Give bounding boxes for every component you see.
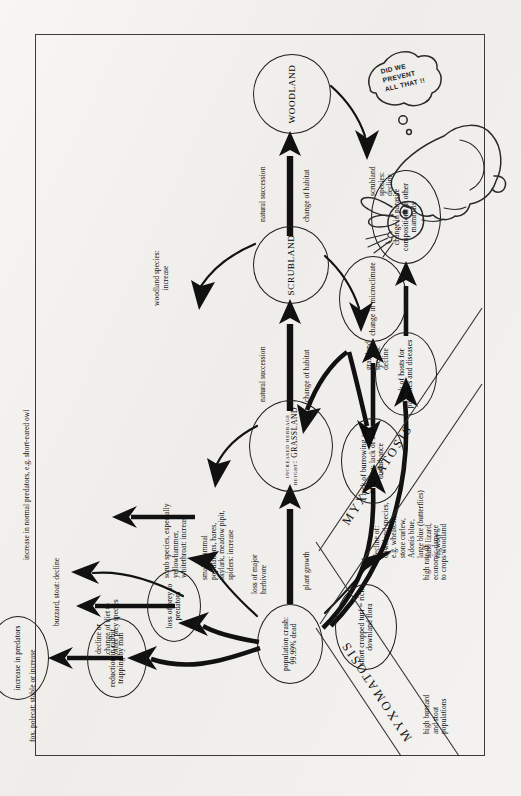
- node-loss-of-prey: loss of prey to predators: [147, 570, 201, 642]
- caption-scrub-species: scrub species, especially yellowhammer, …: [163, 438, 189, 578]
- caption-fox-polecat: fox, polecat: stable or increase: [29, 552, 38, 742]
- caption-small-mammal: small mammal populations, hares, skylark…: [201, 420, 236, 580]
- node-lack-of-hosts-label: lack of hosts for parasites and diseases: [398, 335, 415, 413]
- caption-plant-growth: plant growth: [303, 498, 312, 590]
- caption-loss-of-major-herbivore: loss of major herbivore: [251, 502, 268, 594]
- node-population-crash-label: population crash: 99.99% dead: [282, 607, 299, 681]
- caption-buzzard-stoat: buzzard, stoat: decline: [53, 466, 62, 626]
- rabbit-ear-right: [369, 215, 399, 227]
- caption-economic-damage: high rate of economic damage to crops/wo…: [423, 450, 449, 580]
- caption-high-buzzard-populations: high buzzard and stoat populations: [423, 614, 449, 734]
- caption-change-of-habitat-1: change of habitat: [303, 296, 312, 402]
- node-loss-of-prey-label: loss of prey to predators: [166, 573, 183, 639]
- node-scrubland-label: SCRUBLAND: [286, 234, 296, 295]
- node-scrubland: SCRUBLAND: [253, 226, 329, 304]
- node-grassland-label: increased herbage height: GRASSLAND: [283, 403, 300, 489]
- node-grassland: increased herbage height: GRASSLAND: [249, 400, 333, 492]
- rabbit-pupil: [402, 209, 407, 214]
- caption-grassland-species: grassland species: decline: [365, 274, 391, 370]
- caption-natural-succession-1: natural succession: [259, 296, 268, 402]
- caption-normal-predators: increase in normal predators, e.g. short…: [23, 270, 32, 560]
- rabbit-haunch: [460, 140, 484, 190]
- caption-change-of-habitat-2: change of habitat: [303, 116, 312, 222]
- node-woodland-label: WOODLAND: [287, 65, 297, 124]
- rabbit-paw-rear: [444, 207, 466, 209]
- rabbit-cartoon: DID WE PREVENT ALL THAT !!: [356, 42, 508, 277]
- caption-decline-diet: decline or change of diet to other prey …: [95, 514, 121, 654]
- caption-woodland-species: woodland species: increase: [153, 230, 170, 326]
- node-short-cropped-turf: short cropped turf = rich downland flora: [335, 584, 397, 670]
- rabbit-ear-left: [361, 197, 393, 215]
- caption-natural-succession-2: natural succession: [259, 116, 268, 222]
- node-increase-in-predators-label: increase in predators: [14, 626, 23, 691]
- bubble-dot-large: [399, 116, 407, 124]
- bubble-dot-small: [407, 130, 412, 135]
- rabbit-tail: [492, 176, 506, 192]
- node-population-crash: population crash: 99.99% dead: [257, 604, 323, 684]
